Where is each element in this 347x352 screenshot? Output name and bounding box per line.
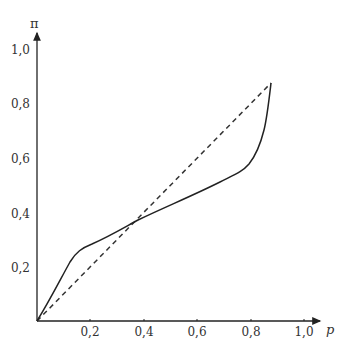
y-tick-label: 0,8	[11, 97, 30, 111]
y-tick-label: 1,0	[11, 43, 30, 57]
y-tick-label: 0,4	[11, 207, 30, 221]
diagonal-line	[37, 83, 271, 321]
x-tick-label: 1,0	[294, 325, 313, 339]
y-axis-label: π	[30, 16, 39, 31]
y-tick-label: 0,6	[11, 152, 30, 166]
x-axis-label: p	[326, 322, 335, 337]
chart: 0,2 0,4 0,6 0,8 1,0 p 0,2 0,4 0,6 0,8 1,…	[0, 0, 347, 352]
x-tick-label: 0,2	[80, 325, 99, 339]
x-tick-label: 0,8	[241, 325, 260, 339]
x-tick-label: 0,4	[134, 325, 153, 339]
y-tick-label: 0,2	[11, 261, 30, 275]
x-tick-label: 0,6	[187, 325, 206, 339]
